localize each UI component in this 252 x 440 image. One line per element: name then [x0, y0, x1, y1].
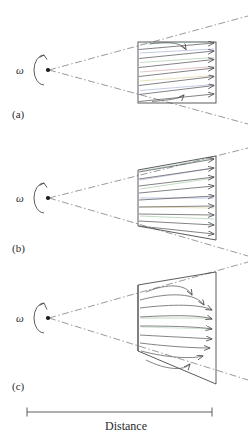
omega-label-c: ω [16, 312, 24, 324]
cone-lines-b [49, 148, 248, 256]
flow-lines-a [139, 43, 214, 102]
source-point-a [46, 68, 50, 72]
rotating-flow-figure: ω (a) [0, 0, 252, 440]
rotation-source-c: ω [16, 303, 50, 333]
omega-label-a: ω [16, 64, 24, 76]
source-point-c [46, 316, 50, 320]
panel-a: ω (a) [12, 16, 248, 124]
panel-label-c: (c) [12, 380, 25, 393]
panel-c: ω (c) [12, 262, 248, 393]
cone-lines-c [49, 262, 248, 380]
rotation-source-a: ω [16, 55, 50, 85]
panel-label-a: (a) [12, 108, 25, 121]
omega-label-b: ω [16, 192, 24, 204]
flow-tints-b [140, 158, 214, 219]
flow-tints-c [141, 318, 212, 329]
distance-label: Distance [105, 419, 147, 433]
flow-lines-b [139, 159, 214, 234]
source-point-b [46, 196, 50, 200]
distance-scale-bar: Distance [27, 408, 212, 434]
cone-lines-a [49, 16, 248, 124]
panel-b: ω (b) [12, 148, 248, 256]
panel-label-b: (b) [12, 242, 25, 255]
rotation-source-b: ω [16, 183, 50, 213]
